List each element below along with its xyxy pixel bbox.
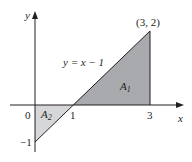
x-tick-label-1: 1 bbox=[70, 109, 76, 121]
point-label-3-2: (3, 2) bbox=[136, 16, 160, 29]
y-axis-arrow-icon bbox=[32, 11, 38, 19]
x-axis-label: x bbox=[177, 112, 183, 124]
x-tick-label-3: 3 bbox=[147, 109, 153, 121]
area-diagram: y x 0 1 3 −1 y = x − 1 (3, 2) A1 A2 bbox=[0, 0, 192, 162]
y-axis-label: y bbox=[24, 9, 30, 21]
x-axis-arrow-icon bbox=[176, 102, 184, 108]
y-tick-label-neg1: −1 bbox=[20, 136, 32, 148]
equation-label: y = x − 1 bbox=[62, 56, 104, 68]
origin-label: 0 bbox=[25, 109, 31, 121]
